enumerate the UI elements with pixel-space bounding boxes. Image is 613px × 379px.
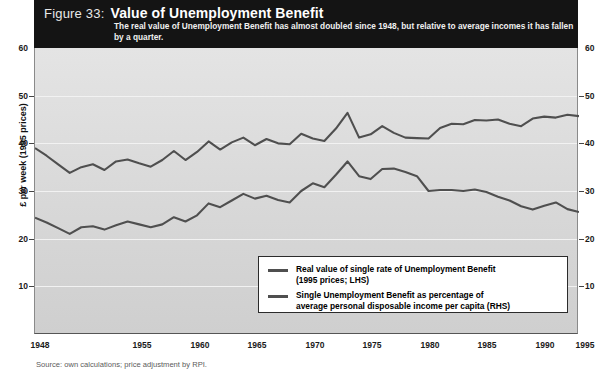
figure-title: Value of Unemployment Benefit <box>111 5 324 21</box>
figure-number: Figure 33: <box>44 6 105 21</box>
x-tick-1995: 1995 <box>565 340 605 350</box>
x-tick-1975: 1975 <box>352 340 392 350</box>
y-tickmark-right-20 <box>579 239 584 240</box>
y-tick-right-60: 60 <box>585 43 609 53</box>
chart-legend: Real value of single rate of Unemploymen… <box>258 256 568 313</box>
legend-label-percentage-line2: average personal disposable income per c… <box>296 301 510 311</box>
y-tick-left-10: 10 <box>4 281 28 291</box>
y-tickmark-right-50 <box>579 96 584 97</box>
y-tick-right-10: 10 <box>585 281 609 291</box>
x-tick-1955: 1955 <box>122 340 162 350</box>
y-tick-right-40: 40 <box>585 138 609 148</box>
series-line-real-value <box>35 113 579 173</box>
y-tickmark-right-40 <box>579 143 584 144</box>
figure-container: Figure 33:Value of Unemployment Benefit … <box>0 0 613 379</box>
x-tick-1960: 1960 <box>180 340 220 350</box>
x-tick-1980: 1980 <box>410 340 450 350</box>
legend-label-real-value-line1: Real value of single rate of Unemploymen… <box>296 264 496 274</box>
source-note: Source: own calculations; price adjustme… <box>36 360 207 369</box>
y-tickmark-left-30 <box>29 191 34 192</box>
x-tick-1965: 1965 <box>237 340 277 350</box>
legend-swatch-real-value <box>268 269 288 272</box>
y-tick-right-30: 30 <box>585 186 609 196</box>
x-tick-1970: 1970 <box>295 340 335 350</box>
y-tickmark-left-50 <box>29 96 34 97</box>
legend-swatch-percentage <box>268 295 288 298</box>
x-tick-1985: 1985 <box>467 340 507 350</box>
y-axis-title-left: £ per week (1995 prices) <box>18 80 28 230</box>
x-tick-1948: 1948 <box>20 340 60 350</box>
legend-label-percentage: Single Unemployment Benefit as percentag… <box>296 290 510 311</box>
y-tickmark-right-10 <box>579 286 584 287</box>
series-line-percentage <box>35 161 579 233</box>
y-tick-right-50: 50 <box>585 91 609 101</box>
figure-header-row: Figure 33:Value of Unemployment Benefit <box>44 4 323 22</box>
x-tick-1990: 1990 <box>525 340 565 350</box>
legend-label-percentage-line1: Single Unemployment Benefit as percentag… <box>296 290 484 300</box>
y-tick-left-60: 60 <box>4 43 28 53</box>
legend-label-real-value-line2: (1995 prices; LHS) <box>296 275 369 285</box>
figure-subtitle: The real value of Unemployment Benefit h… <box>114 21 574 43</box>
y-tickmark-right-30 <box>579 191 584 192</box>
y-tickmark-left-10 <box>29 286 34 287</box>
y-tickmark-left-20 <box>29 239 34 240</box>
y-tick-right-20: 20 <box>585 234 609 244</box>
figure-header: Figure 33:Value of Unemployment Benefit … <box>34 0 578 48</box>
y-tick-left-20: 20 <box>4 234 28 244</box>
legend-label-real-value: Real value of single rate of Unemploymen… <box>296 264 496 285</box>
y-tickmark-left-40 <box>29 143 34 144</box>
